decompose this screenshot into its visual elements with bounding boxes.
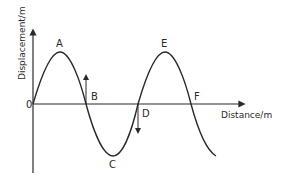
point-label-b: B [91, 91, 98, 102]
origin-label: 0 [26, 99, 32, 110]
point-label-a: A [56, 38, 63, 49]
point-label-e: E [161, 38, 167, 49]
x-axis-label: Distance/m [221, 110, 272, 120]
wave-diagram: Displacement/m Distance/m 0 A B C D E F [0, 0, 286, 183]
y-axis-label: Displacement/m [17, 6, 27, 80]
point-label-c: C [109, 159, 116, 170]
point-label-f: F [194, 91, 200, 102]
point-label-d: D [142, 108, 150, 119]
